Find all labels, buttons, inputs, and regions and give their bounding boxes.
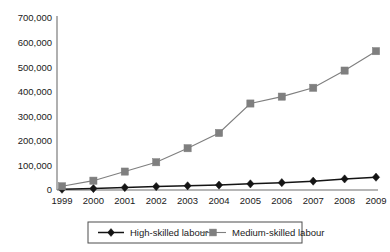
x-tick-label: 2003 (177, 195, 198, 206)
data-point-marker (372, 173, 379, 181)
x-tick-label: 2004 (208, 195, 229, 206)
y-tick-label: 100,000 (18, 160, 52, 171)
data-point-marker (247, 180, 254, 188)
x-tick-label: 2001 (114, 195, 135, 206)
x-tick-label: 2005 (240, 195, 261, 206)
x-tick-label: 2000 (83, 195, 104, 206)
y-tick-label: 0 (47, 184, 52, 195)
data-point-marker (215, 129, 222, 136)
y-tick-label: 300,000 (18, 111, 52, 122)
x-tick-label: 2006 (271, 195, 292, 206)
data-point-marker (341, 175, 348, 183)
legend-label: High-skilled labour (130, 227, 208, 238)
chart-legend: High-skilled labourMedium-skilled labour (88, 222, 324, 243)
series-layer (58, 48, 379, 194)
data-point-marker (310, 84, 317, 91)
data-point-marker (58, 183, 65, 190)
y-tick-label: 200,000 (18, 135, 52, 146)
line-chart: 0100,000200,000300,000400,000500,000600,… (0, 0, 390, 252)
data-point-marker (90, 177, 97, 184)
x-tick-label: 2007 (303, 195, 324, 206)
data-point-marker (210, 229, 217, 236)
x-tick-label: 1999 (51, 195, 72, 206)
x-axis-tick-labels: 1999200020012002200320042005200620072008… (51, 195, 386, 206)
y-tick-label: 500,000 (18, 62, 52, 73)
series-medium-skilled-labour (58, 48, 379, 190)
data-point-marker (184, 182, 191, 190)
series-line (62, 51, 376, 186)
x-tick-label: 2002 (146, 195, 167, 206)
y-axis-tick-labels: 0100,000200,000300,000400,000500,000600,… (18, 12, 52, 195)
y-tick-label: 400,000 (18, 86, 52, 97)
data-point-marker (341, 67, 348, 74)
data-point-marker (247, 100, 254, 107)
data-point-marker (90, 184, 97, 192)
data-point-marker (153, 182, 160, 190)
data-point-marker (372, 48, 379, 55)
data-point-marker (278, 179, 285, 187)
y-tick-label: 700,000 (18, 12, 52, 23)
data-point-marker (153, 159, 160, 166)
chart-canvas: 0100,000200,000300,000400,000500,000600,… (0, 0, 390, 252)
legend-label: Medium-skilled labour (232, 227, 324, 238)
data-point-marker (278, 93, 285, 100)
x-tick-label: 2008 (334, 195, 355, 206)
data-point-marker (184, 145, 191, 152)
y-tick-label: 600,000 (18, 37, 52, 48)
data-point-marker (121, 168, 128, 175)
x-tick-label: 2009 (365, 195, 386, 206)
data-point-marker (215, 181, 222, 189)
data-point-marker (310, 177, 317, 185)
